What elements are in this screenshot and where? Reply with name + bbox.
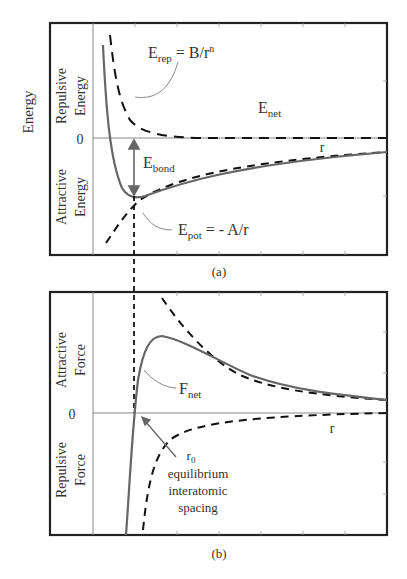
r0-arrow [142, 417, 176, 457]
fnet-curve [126, 336, 387, 535]
fnet-leader [144, 370, 176, 388]
attractive-force-label-2: Force [73, 344, 88, 376]
attractive-force-label-1: Attractive [54, 332, 69, 388]
fnet-label: Fnet [179, 380, 201, 400]
energy-axis-label: Energy [20, 90, 36, 134]
ebond-label: Ebond [143, 154, 175, 174]
repulsive-force-label-1: Repulsive [54, 442, 69, 498]
panel-a: Repulsive Energy Attractive Energy 0 r E… [50, 23, 387, 279]
repulsive-energy-label-1: Repulsive [54, 68, 69, 124]
erep-leader [135, 62, 178, 98]
attractive-energy-label-1: Attractive [54, 169, 69, 225]
erep-label: Erep = B/rn [148, 43, 214, 64]
enet-label: Enet [258, 99, 281, 119]
r0-label: r0 [187, 448, 196, 465]
panel-b-zero-label: 0 [69, 407, 76, 422]
ebond-arrow [129, 140, 139, 195]
panel-b-r-label: r [330, 421, 335, 436]
panel-b: Attractive Force Repulsive Force 0 r Fne… [50, 292, 387, 561]
panel-a-r-label: r [320, 140, 325, 155]
epot-label: Epot = - A/r [178, 221, 249, 241]
panel-a-zero-label: 0 [77, 132, 84, 147]
repulsive-force-label-2: Force [73, 454, 88, 486]
bonding-energy-force-diagram: Repulsive Energy Attractive Energy 0 r E… [0, 0, 407, 579]
panel-a-caption: (a) [212, 264, 226, 279]
panel-b-caption: (b) [211, 546, 226, 561]
r0-desc-line-1: equilibrium [168, 466, 229, 481]
r0-desc-line-3: spacing [178, 500, 218, 515]
enet-curve [103, 45, 387, 197]
repulsive-energy-label-2: Energy [73, 76, 88, 116]
attractive-energy-label-2: Energy [73, 177, 88, 217]
epot-leader [143, 213, 172, 230]
r0-desc-line-2: interatomic [168, 483, 227, 498]
